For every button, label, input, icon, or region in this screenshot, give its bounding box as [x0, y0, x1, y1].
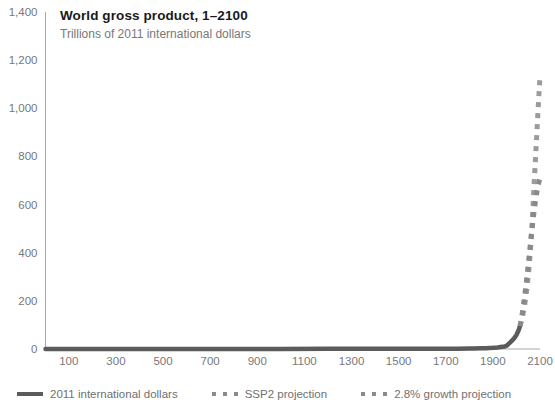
- chart-series-line: [46, 326, 520, 349]
- x-axis-tick-label: 900: [248, 355, 267, 367]
- y-axis-tick-label: 0: [31, 343, 37, 355]
- legend-item-actual[interactable]: 2011 international dollars: [17, 388, 178, 400]
- x-axis-tick-label: 1500: [386, 355, 412, 367]
- dotted-line-icon: [212, 392, 238, 396]
- x-axis-tick-label: 1100: [292, 355, 317, 367]
- x-axis-tick-label: 1300: [339, 355, 365, 367]
- x-axis-tick-label: 1900: [480, 355, 506, 367]
- legend-item-ssp2[interactable]: SSP2 projection: [212, 388, 327, 400]
- y-axis-tick-label: 1,200: [9, 54, 38, 66]
- chart-container: World gross product, 1–2100 Trillions of…: [0, 0, 555, 418]
- footer-strip: [0, 409, 555, 418]
- y-axis-tick-label: 1,000: [9, 102, 38, 114]
- solid-line-icon: [17, 392, 43, 396]
- x-axis-tick-labels: 100300500700900110013001500170019002100: [59, 355, 553, 367]
- x-axis-tick-label: 500: [153, 355, 172, 367]
- x-axis-tick-label: 1700: [433, 355, 459, 367]
- y-axis-tick-label: 800: [18, 150, 37, 162]
- legend-item-growth[interactable]: 2.8% growth projection: [361, 388, 511, 400]
- x-axis-tick-label: 300: [106, 355, 125, 367]
- dotted-line-icon: [361, 392, 387, 396]
- chart-series-layer: [46, 77, 541, 349]
- chart-legend: 2011 international dollars SSP2 projecti…: [0, 381, 555, 407]
- chart-plot-area: 02004006008001,0001,2001,400 10030050070…: [0, 0, 555, 381]
- y-axis-tick-label: 1,400: [9, 6, 38, 18]
- y-axis-tick-label: 600: [18, 199, 37, 211]
- legend-item-label: SSP2 projection: [245, 388, 327, 400]
- y-axis-tick-label: 400: [18, 247, 37, 259]
- x-axis-tick-label: 100: [59, 355, 78, 367]
- y-axis-tick-labels: 02004006008001,0001,2001,400: [9, 6, 38, 355]
- legend-item-label: 2.8% growth projection: [394, 388, 511, 400]
- x-axis-tick-label: 2100: [527, 355, 553, 367]
- y-axis-tick-label: 200: [18, 295, 37, 307]
- x-axis-tick-label: 700: [201, 355, 220, 367]
- legend-item-label: 2011 international dollars: [50, 388, 178, 400]
